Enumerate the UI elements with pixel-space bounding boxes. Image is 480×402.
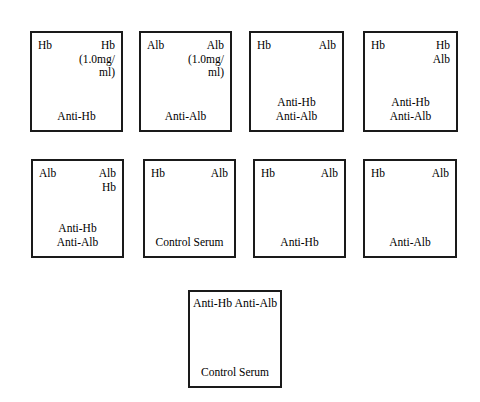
plate-8-antibody-1: Anti-Alb <box>365 235 455 249</box>
plate-4-antigen-row: Hb Hb Alb <box>365 39 456 66</box>
plate-7-antibody-1: Anti-Hb <box>255 235 344 249</box>
plate-6-inner: Hb Alb Control Serum <box>145 161 234 256</box>
plate-3-antibody-block: Anti-Hb Anti-Alb <box>251 95 342 123</box>
plate-5-antigen-right-second: Hb <box>99 181 116 195</box>
plate-5-antigen-row: Alb Alb Hb <box>33 167 122 194</box>
plate-5-antibody-2: Anti-Alb <box>33 235 122 249</box>
plate-8-antigen-right-main: Alb <box>432 167 449 179</box>
plate-6-antibody-1: Control Serum <box>145 235 234 249</box>
plate-7-antigen-right-main: Alb <box>321 167 338 179</box>
plate-1-antigen-right: Hb (1.0mg/ ml) <box>79 39 115 80</box>
plate-6: Hb Alb Control Serum <box>143 159 236 258</box>
plate-5-antigen-right: Alb Hb <box>99 167 116 194</box>
plate-7-antigen-row: Hb Alb <box>255 167 344 181</box>
plate-2-antigen-conc-line1: (1.0mg/ <box>188 53 224 67</box>
plate-3-antibody-1: Anti-Hb <box>251 95 342 109</box>
plate-4-antigen-left: Hb <box>371 39 385 53</box>
plate-2-antibody-1: Anti-Alb <box>141 109 230 123</box>
plate-7-antibody-block: Anti-Hb <box>255 235 344 249</box>
plate-7-antigen-right: Alb <box>321 167 338 181</box>
immunodiffusion-diagram: Hb Hb (1.0mg/ ml) Anti-Hb Alb Alb (1.0mg… <box>0 0 480 402</box>
plate-5-antibody-1: Anti-Hb <box>33 221 122 235</box>
plate-4-antibody-block: Anti-Hb Anti-Alb <box>365 95 456 123</box>
plate-2-antigen-row: Alb Alb (1.0mg/ ml) <box>141 39 230 80</box>
plate-6-antigen-left: Hb <box>151 167 165 181</box>
plate-2-antigen-left: Alb <box>147 39 164 53</box>
plate-4-antigen-right: Hb Alb <box>433 39 450 66</box>
plate-4: Hb Hb Alb Anti-Hb Anti-Alb <box>363 31 458 132</box>
plate-7: Hb Alb Anti-Hb <box>253 159 346 258</box>
plate-8-antibody-block: Anti-Alb <box>365 235 455 249</box>
plate-2-antigen-right: Alb (1.0mg/ ml) <box>188 39 224 80</box>
plate-9-antibody-1: Control Serum <box>190 365 280 379</box>
plate-5: Alb Alb Hb Anti-Hb Anti-Alb <box>31 159 124 258</box>
plate-3: Hb Alb Anti-Hb Anti-Alb <box>249 31 344 132</box>
plate-8: Hb Alb Anti-Alb <box>363 159 457 258</box>
plate-4-antibody-1: Anti-Hb <box>365 95 456 109</box>
plate-6-antigen-right-main: Alb <box>211 167 228 179</box>
plate-5-inner: Alb Alb Hb Anti-Hb Anti-Alb <box>33 161 122 256</box>
plate-1: Hb Hb (1.0mg/ ml) Anti-Hb <box>30 31 123 132</box>
plate-1-antibody-1: Anti-Hb <box>32 109 121 123</box>
plate-1-antigen-row: Hb Hb (1.0mg/ ml) <box>32 39 121 80</box>
plate-3-antigen-right: Alb <box>319 39 336 53</box>
plate-1-antigen-right-main: Hb <box>101 39 115 51</box>
plate-4-antibody-2: Anti-Alb <box>365 109 456 123</box>
plate-2: Alb Alb (1.0mg/ ml) Anti-Alb <box>139 31 232 132</box>
plate-8-antigen-row: Hb Alb <box>365 167 455 181</box>
plate-4-antigen-right-main: Hb <box>436 39 450 51</box>
plate-8-inner: Hb Alb Anti-Alb <box>365 161 455 256</box>
plate-6-antigen-right: Alb <box>211 167 228 181</box>
plate-3-antigen-row: Hb Alb <box>251 39 342 53</box>
plate-1-inner: Hb Hb (1.0mg/ ml) Anti-Hb <box>32 33 121 130</box>
plate-5-antigen-left: Alb <box>39 167 56 181</box>
plate-9-inner: Anti-Hb Anti-Alb Control Serum <box>190 292 280 386</box>
plate-9-antibody-block: Control Serum <box>190 365 280 379</box>
plate-8-antigen-right: Alb <box>432 167 449 181</box>
plate-7-antigen-left: Hb <box>261 167 275 181</box>
plate-9-top-antibody-row: Anti-Hb Anti-Alb <box>190 296 280 310</box>
plate-6-antigen-row: Hb Alb <box>145 167 234 181</box>
plate-8-antigen-left: Hb <box>371 167 385 181</box>
plate-4-inner: Hb Hb Alb Anti-Hb Anti-Alb <box>365 33 456 130</box>
plate-7-inner: Hb Alb Anti-Hb <box>255 161 344 256</box>
plate-5-antigen-right-main: Alb <box>99 167 116 179</box>
plate-3-antigen-left: Hb <box>257 39 271 53</box>
plate-5-antibody-block: Anti-Hb Anti-Alb <box>33 221 122 249</box>
plate-3-inner: Hb Alb Anti-Hb Anti-Alb <box>251 33 342 130</box>
plate-6-antibody-block: Control Serum <box>145 235 234 249</box>
plate-2-antigen-conc-line2: ml) <box>188 66 224 80</box>
plate-2-inner: Alb Alb (1.0mg/ ml) Anti-Alb <box>141 33 230 130</box>
plate-2-antibody-block: Anti-Alb <box>141 109 230 123</box>
plate-1-antigen-left: Hb <box>38 39 52 53</box>
plate-1-antigen-conc-line1: (1.0mg/ <box>79 53 115 67</box>
plate-1-antigen-conc-line2: ml) <box>79 66 115 80</box>
plate-3-antigen-right-main: Alb <box>319 39 336 51</box>
plate-4-antigen-right-second: Alb <box>433 53 450 67</box>
plate-2-antigen-right-main: Alb <box>207 39 224 51</box>
plate-9: Anti-Hb Anti-Alb Control Serum <box>188 290 282 388</box>
plate-1-antibody-block: Anti-Hb <box>32 109 121 123</box>
plate-3-antibody-2: Anti-Alb <box>251 109 342 123</box>
